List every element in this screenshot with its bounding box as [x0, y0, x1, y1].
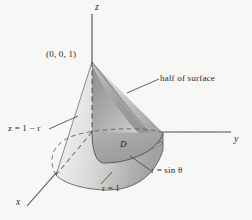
base-radius-label: r = 1 — [102, 184, 120, 193]
region-d-label: D — [120, 140, 127, 149]
figure-container: z y x (0, 0, 1) half of surface z = 1 − … — [0, 0, 252, 220]
cone-equation-label: z = 1 − r — [8, 124, 40, 133]
x-axis-label: x — [16, 198, 20, 208]
leader-half-of-surface — [127, 79, 159, 93]
y-axis-label: y — [234, 135, 238, 145]
polar-curve-label: r = sin θ — [151, 166, 182, 175]
apex-point-label: (0, 0, 1) — [46, 50, 76, 59]
cone-solid — [56, 62, 163, 190]
z-axis-label: z — [95, 3, 99, 13]
cone-diagram-svg — [0, 0, 252, 220]
half-of-surface-label: half of surface — [160, 74, 215, 83]
